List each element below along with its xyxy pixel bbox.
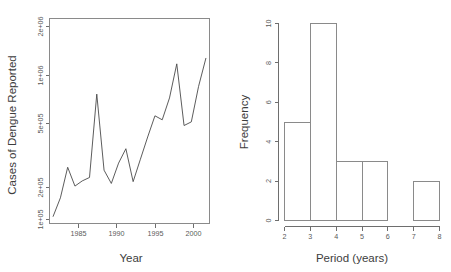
- period-histogram-panel: Frequency Period (years) 10 8 6 4 2 0: [226, 0, 451, 272]
- right-x-ticklabel-6: 6: [386, 232, 390, 241]
- right-x-ticklabel-7: 7: [412, 232, 416, 241]
- right-y-ticklabel-2: 2: [264, 179, 273, 183]
- right-y-ticklabel-10: 10: [264, 20, 273, 28]
- right-y-ticklabel-4: 4: [264, 140, 273, 144]
- dengue-series-line: [53, 58, 206, 216]
- left-x-ticklabel-1990: 1990: [109, 229, 125, 238]
- left-x-ticklabel-1995: 1995: [148, 229, 164, 238]
- histogram-bar: [414, 181, 440, 220]
- right-y-ticklabel-6: 6: [264, 100, 273, 104]
- left-plot-frame: [50, 19, 210, 224]
- left-y-ticklabel-5e05: 5e+05: [36, 113, 45, 133]
- histogram-bar: [310, 24, 336, 221]
- left-x-axis: 1985 1990 1995 2000: [71, 224, 202, 239]
- right-y-ticklabel-0: 0: [264, 219, 273, 223]
- dengue-timeseries-panel: Cases of Dengue Reported Year 2e+06 1e+0…: [0, 0, 226, 272]
- histogram-bar: [362, 161, 388, 220]
- right-x-axis-title: Period (years): [316, 252, 388, 264]
- right-x-ticklabel-2: 2: [283, 232, 287, 241]
- left-y-ticklabel-1e06: 1e+06: [36, 65, 45, 85]
- left-x-axis-title: Year: [119, 252, 142, 264]
- dengue-timeseries-svg: Cases of Dengue Reported Year 2e+06 1e+0…: [0, 0, 226, 272]
- left-x-ticklabel-1985: 1985: [71, 229, 87, 238]
- histogram-bar: [336, 161, 362, 220]
- left-x-ticklabel-2000: 2000: [186, 229, 202, 238]
- histogram-bar: [285, 122, 311, 221]
- left-y-ticklabel-2e05: 2e+05: [36, 177, 45, 197]
- right-y-axis-title: Frequency: [238, 95, 250, 150]
- period-histogram-svg: Frequency Period (years) 10 8 6 4 2 0: [226, 0, 451, 272]
- right-x-axis: 2 3 4 5 6 7 8: [283, 227, 442, 242]
- right-y-ticklabel-8: 8: [264, 61, 273, 65]
- right-x-ticklabel-3: 3: [308, 232, 312, 241]
- right-x-ticklabel-4: 4: [334, 232, 338, 241]
- right-y-axis: 10 8 6 4 2 0: [264, 20, 279, 223]
- left-y-axis: 2e+06 1e+06 5e+05 2e+05 1e+05: [36, 16, 50, 229]
- right-x-ticklabel-5: 5: [360, 232, 364, 241]
- histogram-bars: [285, 24, 440, 221]
- left-y-axis-title: Cases of Dengue Reported: [6, 55, 18, 194]
- right-x-ticklabel-8: 8: [438, 232, 442, 241]
- figure-container: Cases of Dengue Reported Year 2e+06 1e+0…: [0, 0, 451, 272]
- left-y-ticklabel-1e05: 1e+05: [36, 209, 45, 229]
- left-y-ticklabel-2e06: 2e+06: [36, 16, 45, 36]
